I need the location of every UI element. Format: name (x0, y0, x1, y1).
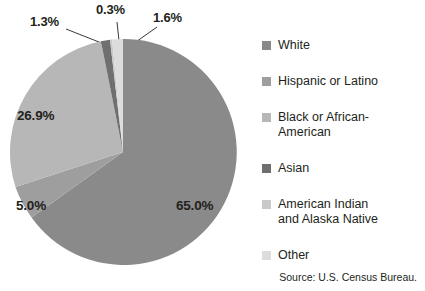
legend-label: American Indian and Alaska Native (278, 197, 378, 227)
legend-swatch-icon (262, 41, 271, 50)
legend-item-other[interactable]: Other (262, 248, 422, 263)
callout-value-american-indian-and-alaska-native: 0.3% (96, 2, 125, 17)
pie-slices (10, 39, 237, 265)
callout-value-asian: 1.3% (30, 14, 59, 29)
legend-item-hispanic-or-latino[interactable]: Hispanic or Latino (262, 74, 422, 89)
callout-value-other: 1.6% (153, 10, 182, 25)
slice-value-black-or-african-american: 26.9% (17, 108, 54, 123)
leader-line-1 (66, 29, 104, 44)
leader-line-2 (117, 22, 119, 41)
legend-label: White (278, 38, 310, 53)
legend-label: Asian (278, 161, 309, 176)
legend-item-american-indian-and-alaska-native[interactable]: American Indian and Alaska Native (262, 197, 422, 227)
legend-item-white[interactable]: White (262, 38, 422, 53)
pie-svg (0, 0, 255, 291)
legend-swatch-icon (262, 77, 271, 86)
legend-item-asian[interactable]: Asian (262, 161, 422, 176)
legend-swatch-icon (262, 200, 271, 209)
legend: White Hispanic or Latino Black or Africa… (262, 38, 422, 284)
slice-value-hispanic-or-latino: 5.0% (16, 198, 46, 213)
legend-label: Hispanic or Latino (278, 74, 378, 89)
slice-value-white: 65.0% (176, 198, 213, 213)
source-note: Source: U.S. Census Bureau. (279, 271, 417, 283)
legend-label: Other (278, 248, 309, 263)
legend-label: Black or African- American (278, 110, 369, 140)
legend-item-black-or-african-american[interactable]: Black or African- American (262, 110, 422, 140)
pie-chart-figure: 65.0% 26.9% 5.0% 1.3% 0.3% 1.6% White Hi… (0, 0, 425, 291)
legend-swatch-icon (262, 251, 271, 260)
legend-swatch-icon (262, 164, 271, 173)
legend-swatch-icon (262, 113, 271, 122)
pie-plot-area: 65.0% 26.9% 5.0% 1.3% 0.3% 1.6% (0, 0, 255, 291)
